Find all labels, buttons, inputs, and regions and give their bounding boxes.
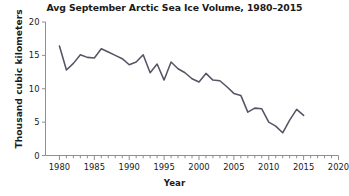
x-tick-label: 2000	[188, 162, 209, 172]
x-axis-ticks: 198019851990199520002005201020152020	[49, 156, 349, 172]
x-tick-label: 1985	[84, 162, 105, 172]
x-tick-label: 1980	[49, 162, 70, 172]
x-tick-label: 2015	[293, 162, 314, 172]
x-tick-label: 1990	[119, 162, 140, 172]
plot-area: 05101520 1980198519901995200020052010201…	[0, 0, 349, 196]
y-axis-ticks: 05101520	[29, 17, 46, 161]
x-tick-label: 2020	[328, 162, 349, 172]
x-tick-label: 1995	[153, 162, 174, 172]
y-tick-label: 5	[34, 117, 39, 127]
chart-figure: Avg September Arctic Sea Ice Volume, 198…	[0, 0, 349, 196]
x-tick-label: 2010	[258, 162, 279, 172]
y-tick-label: 10	[29, 84, 40, 94]
y-tick-label: 20	[29, 17, 40, 27]
y-tick-label: 0	[34, 151, 39, 161]
data-series-line	[59, 46, 303, 133]
x-tick-label: 2005	[223, 162, 244, 172]
y-tick-label: 15	[29, 50, 40, 60]
